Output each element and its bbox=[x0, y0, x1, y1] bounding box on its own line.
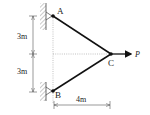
dimension-label-horizontal: 4m bbox=[76, 95, 87, 104]
pin-support-icon bbox=[46, 87, 52, 95]
member-bc bbox=[53, 54, 111, 91]
dimension-label-lower: 3m bbox=[17, 67, 28, 76]
truss-diagram: A B C P 3m 3m 4m bbox=[0, 0, 150, 115]
joint-c bbox=[109, 52, 113, 56]
vertical-dimension bbox=[29, 16, 37, 92]
node-label-a: A bbox=[57, 6, 64, 16]
member-ac bbox=[53, 16, 111, 54]
load-label-p: P bbox=[134, 50, 140, 59]
wall-support-a bbox=[40, 3, 52, 30]
node-label-c: C bbox=[108, 58, 114, 68]
dimension-label-upper: 3m bbox=[17, 32, 28, 41]
pin-support-icon bbox=[46, 12, 52, 20]
joint-a bbox=[51, 14, 55, 18]
node-label-b: B bbox=[55, 90, 61, 100]
wall-support-b bbox=[40, 82, 52, 101]
